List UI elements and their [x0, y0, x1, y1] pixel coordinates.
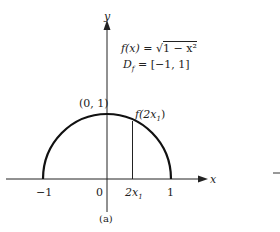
y-axis-label: y — [104, 11, 110, 22]
tick-2x1: 2x1 — [125, 187, 143, 201]
tick-zero: 0 — [96, 187, 103, 198]
x-axis-arrow-icon — [198, 176, 208, 183]
figure-caption: (a) — [99, 214, 113, 224]
x-axis-label: x — [210, 174, 216, 185]
tick-neg1: −1 — [36, 187, 52, 198]
point-top-label: (0, 1) — [79, 98, 109, 109]
domain-label: Df = [−1, 1] — [123, 59, 189, 73]
tick-one: 1 — [167, 187, 174, 198]
point-f-label: f(2x1) — [135, 109, 165, 123]
function-label: f(x) = √1 − x² — [121, 43, 197, 54]
